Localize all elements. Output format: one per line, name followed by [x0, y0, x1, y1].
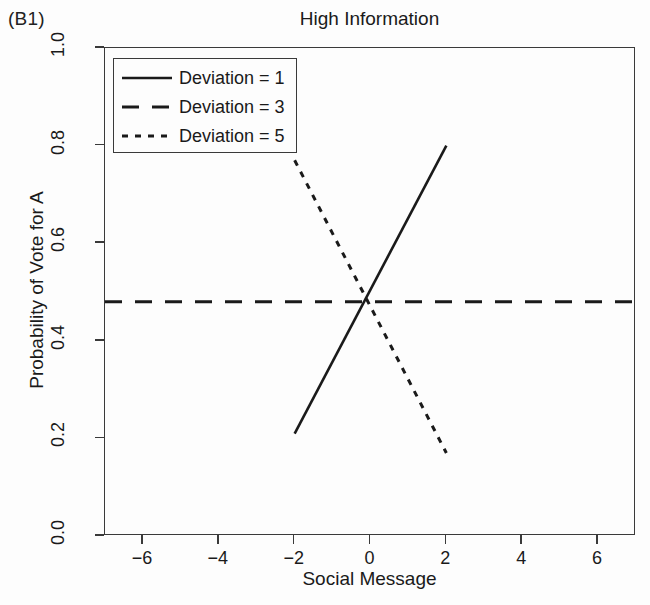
chart-figure: (B1) High Information Probability of Vot… [0, 0, 650, 605]
x-tick-mark [445, 535, 447, 544]
x-tick-label: 2 [440, 548, 450, 569]
legend-label: Deviation = 3 [179, 97, 285, 118]
y-tick-mark [95, 241, 104, 243]
y-tick-mark [95, 144, 104, 146]
legend-item: Deviation = 1 [121, 64, 285, 92]
x-tick-mark [141, 535, 143, 544]
y-tick-mark [95, 534, 104, 536]
panel-label: (B1) [8, 8, 45, 30]
series-line-3 [295, 160, 447, 453]
x-tick-label: 0 [364, 548, 374, 569]
x-tick-mark [293, 535, 295, 544]
y-tick-label: 0.0 [48, 503, 69, 563]
y-tick-label: 1.0 [48, 15, 69, 75]
x-tick-mark [520, 535, 522, 544]
legend-label: Deviation = 5 [179, 126, 285, 147]
y-tick-label: 0.4 [48, 307, 69, 367]
x-tick-label: −2 [283, 548, 304, 569]
y-tick-mark [95, 46, 104, 48]
legend-key-dotted-icon [121, 128, 173, 144]
x-tick-mark [596, 535, 598, 544]
x-tick-label: 4 [516, 548, 526, 569]
legend: Deviation = 1Deviation = 3Deviation = 5 [113, 58, 297, 153]
legend-key-dashed-icon [121, 99, 173, 115]
x-tick-label: −6 [132, 548, 153, 569]
y-axis-title: Probability of Vote for A [26, 45, 48, 535]
series-line-1 [295, 146, 447, 434]
y-tick-label: 0.6 [48, 210, 69, 270]
y-tick-label: 0.8 [48, 112, 69, 172]
x-tick-mark [369, 535, 371, 544]
x-axis-title: Social Message [104, 568, 635, 590]
x-tick-label: −4 [208, 548, 229, 569]
legend-item: Deviation = 5 [121, 122, 285, 150]
y-tick-label: 0.2 [48, 405, 69, 465]
chart-title: High Information [104, 8, 635, 30]
x-tick-mark [217, 535, 219, 544]
y-tick-mark [95, 437, 104, 439]
legend-key-solid-icon [121, 70, 173, 86]
legend-label: Deviation = 1 [179, 68, 285, 89]
y-tick-mark [95, 339, 104, 341]
x-tick-label: 6 [592, 548, 602, 569]
legend-item: Deviation = 3 [121, 93, 285, 121]
